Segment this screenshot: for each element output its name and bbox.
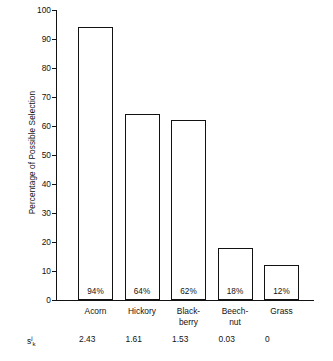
y-axis-tick-mark <box>52 184 56 185</box>
y-axis-tick-label: 20 <box>42 237 51 247</box>
bar-value-label: 64% <box>126 287 159 296</box>
y-axis-tick-mark <box>52 68 56 69</box>
statistic-value: 0 <box>257 334 306 344</box>
y-axis-tick-label: 90 <box>42 34 51 44</box>
bar-value-label: 12% <box>265 287 298 296</box>
y-axis-tick-label: 100 <box>37 5 51 15</box>
y-axis-tick-label: 40 <box>42 179 51 189</box>
category-label-line: Acorn <box>71 306 120 317</box>
x-axis-category-label: Hickory <box>118 306 167 317</box>
y-axis-tick-label: 50 <box>42 150 51 160</box>
y-axis-title: Percentage of Possible Selection <box>28 53 37 253</box>
statistic-value: 1.53 <box>164 334 213 344</box>
x-axis-category-label: Beech-nut <box>211 306 260 327</box>
statistic-value: 1.61 <box>118 334 167 344</box>
y-axis-tick-mark <box>52 126 56 127</box>
bar: 12% <box>264 265 299 300</box>
y-axis-tick-mark <box>52 39 56 40</box>
x-axis-line <box>56 300 314 301</box>
y-axis-tick-label: 10 <box>42 266 51 276</box>
category-label-line: Grass <box>257 306 306 317</box>
y-axis-tick-label: 0 <box>46 295 51 305</box>
statistic-symbol-subscript: k <box>33 340 36 347</box>
y-axis-tick-label: 80 <box>42 63 51 73</box>
y-axis-tick-mark <box>52 213 56 214</box>
category-label-line: Beech- <box>211 306 260 317</box>
bar-value-label: 18% <box>219 287 252 296</box>
bar: 18% <box>218 248 253 300</box>
y-axis-tick-mark <box>52 155 56 156</box>
y-axis-tick-label: 60 <box>42 121 51 131</box>
plot-area: 0102030405060708090100 94%64%62%18%12% <box>56 10 318 302</box>
bar: 94% <box>78 27 113 300</box>
x-axis-category-label: Black-berry <box>164 306 213 327</box>
y-axis-tick-mark <box>52 300 56 301</box>
bar-value-label: 62% <box>172 287 205 296</box>
x-axis-category-label: Grass <box>257 306 306 317</box>
statistic-value: 0.03 <box>211 334 260 344</box>
y-axis-tick-mark <box>52 242 56 243</box>
y-axis-tick-mark <box>52 271 56 272</box>
bar-chart-figure: Percentage of Possible Selection 0102030… <box>0 0 333 361</box>
category-label-line: Hickory <box>118 306 167 317</box>
category-label-line: berry <box>164 317 213 328</box>
y-axis-line <box>56 10 57 301</box>
bar: 64% <box>125 114 160 300</box>
y-axis-tick-label: 30 <box>42 208 51 218</box>
y-axis-tick-mark <box>52 10 56 11</box>
y-axis-tick-label: 70 <box>42 92 51 102</box>
x-axis-category-label: Acorn <box>71 306 120 317</box>
bar-value-label: 94% <box>79 287 112 296</box>
bar: 62% <box>171 120 206 300</box>
statistic-symbol: sjk <box>27 334 36 347</box>
statistic-value: 2.43 <box>71 334 120 344</box>
y-axis-tick-mark <box>52 97 56 98</box>
category-label-line: Black- <box>164 306 213 317</box>
category-label-line: nut <box>211 317 260 328</box>
